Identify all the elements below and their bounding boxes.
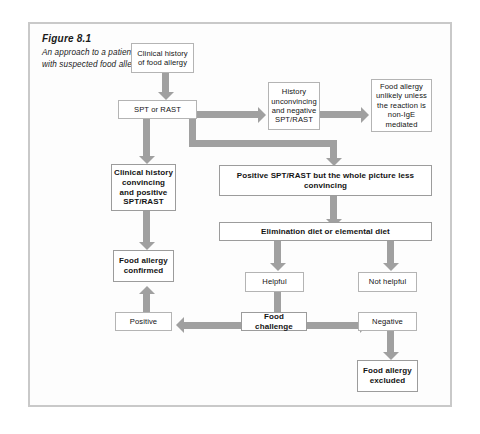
connector-less-convincing-to-elimination xyxy=(330,196,337,221)
node-positive[interactable]: Positive xyxy=(115,312,172,331)
arrowhead-unconvincing-to-unlikely xyxy=(361,107,369,123)
connector-elimination-to-not-helpful xyxy=(387,241,394,265)
connector-elimination-to-helpful xyxy=(274,241,281,265)
node-elimination-diet[interactable]: Elimination diet or elemental diet xyxy=(219,222,432,241)
arrowhead-positive-to-confirmed xyxy=(139,286,155,294)
connector-unconvincing-to-unlikely xyxy=(320,111,363,118)
node-food-allergy-excluded[interactable]: Food allergy excluded xyxy=(357,360,418,392)
node-helpful[interactable]: Helpful xyxy=(245,272,304,292)
arrowhead-elimination-to-helpful xyxy=(270,263,286,271)
connector-spt-elbow-across xyxy=(189,140,337,147)
arrowhead-challenge-to-positive xyxy=(176,317,184,333)
node-clinical-history[interactable]: Clinical history of food allergy xyxy=(131,43,194,73)
node-positive-less-convincing[interactable]: Positive SPT/RAST but the whole picture … xyxy=(219,165,432,196)
node-food-challenge[interactable]: Food challenge xyxy=(241,312,307,331)
connector-negative-to-excluded xyxy=(387,331,394,354)
figure-frame: Figure 8.1 An approach to a patient with… xyxy=(28,22,452,407)
arrowhead-convincing-to-confirmed xyxy=(139,242,155,250)
connector-spt-to-convincing xyxy=(143,119,150,158)
connector-spt-elbow-drop xyxy=(330,140,337,160)
connector-challenge-to-negative xyxy=(306,322,362,329)
arrowhead-history-to-spt xyxy=(158,92,174,100)
arrowhead-spt-to-convincing xyxy=(139,156,155,164)
arrowhead-spt-to-unconvincing xyxy=(258,107,266,123)
node-not-helpful[interactable]: Not helpful xyxy=(358,272,417,292)
node-history-unconvincing[interactable]: History unconvincing and negative SPT/RA… xyxy=(268,82,320,130)
node-spt-or-rast[interactable]: SPT or RAST xyxy=(118,100,197,119)
node-negative[interactable]: Negative xyxy=(358,312,417,331)
node-clinical-history-convincing[interactable]: Clinical history convincing and positive… xyxy=(111,164,176,211)
arrowhead-negative-to-excluded xyxy=(383,352,399,360)
connector-convincing-to-confirmed xyxy=(143,211,150,244)
node-food-allergy-unlikely[interactable]: Food allergy unlikely unless the reactio… xyxy=(371,79,432,132)
connector-spt-to-unconvincing xyxy=(197,111,260,118)
node-food-allergy-confirmed[interactable]: Food allergy confirmed xyxy=(113,250,174,282)
arrowhead-elimination-to-not-helpful xyxy=(383,263,399,271)
connector-challenge-to-positive xyxy=(182,322,242,329)
connector-positive-to-confirmed xyxy=(143,292,150,314)
connector-history-to-spt xyxy=(162,73,169,94)
